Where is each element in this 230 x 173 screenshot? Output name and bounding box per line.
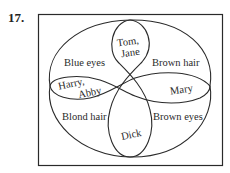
set-label-blue-eyes: Blue eyes (64, 57, 105, 68)
set-label-brown-hair: Brown hair (152, 57, 200, 68)
venn-diagram (0, 0, 230, 173)
set-label-blond-hair: Blond hair (62, 111, 107, 122)
set-label-brown-eyes: Brown eyes (153, 111, 203, 122)
